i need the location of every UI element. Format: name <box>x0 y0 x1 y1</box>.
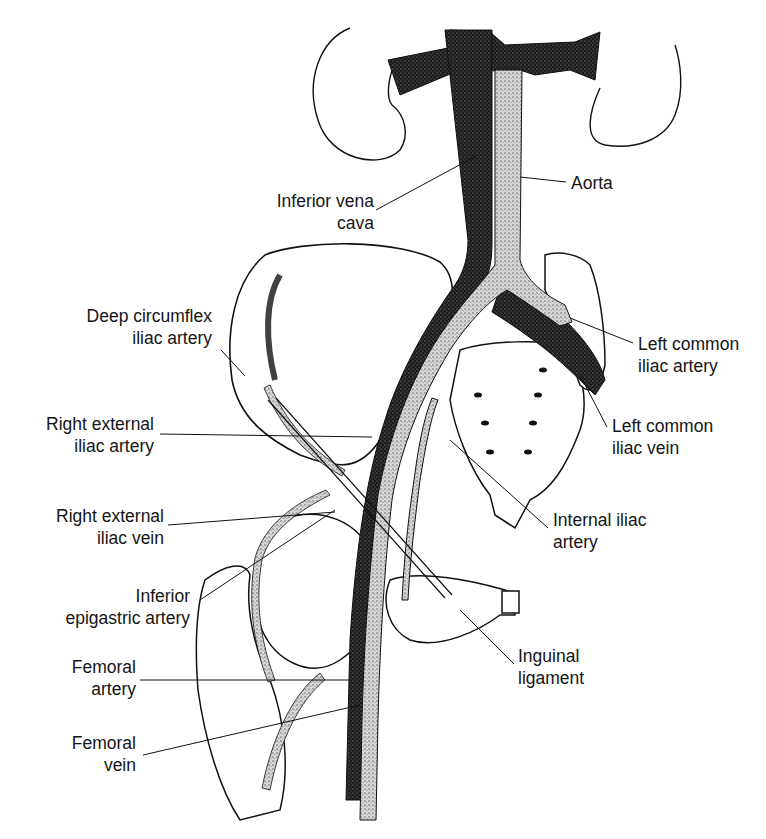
renal-veins <box>388 30 600 95</box>
label-internal-iliac-artery: Internal iliac artery <box>553 509 646 553</box>
label-inferior-epigastric-artery: Inferior epigastric artery <box>30 585 190 629</box>
label-left-common-iliac-vein: Left common iliac vein <box>612 415 713 459</box>
left-kidney <box>590 45 681 146</box>
label-left-common-iliac-artery: Left common iliac artery <box>638 333 739 377</box>
label-inguinal-ligament: Inguinal ligament <box>518 645 584 689</box>
label-right-external-iliac-vein: Right external iliac vein <box>28 505 164 549</box>
anatomy-figure: Inferior vena cava Aorta Deep circumflex… <box>0 0 766 839</box>
label-right-external-iliac-artery: Right external iliac artery <box>18 413 154 457</box>
right-kidney <box>313 28 405 160</box>
label-femoral-vein: Femoral vein <box>40 732 136 776</box>
label-deep-circumflex-iliac-artery: Deep circumflex iliac artery <box>66 305 212 349</box>
label-inferior-vena-cava: Inferior vena cava <box>228 190 374 234</box>
label-femoral-artery: Femoral artery <box>40 656 136 700</box>
label-aorta: Aorta <box>571 172 613 194</box>
